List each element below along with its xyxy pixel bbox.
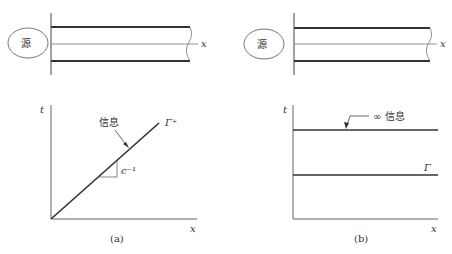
panel-a-arrowhead-icon: [123, 142, 129, 148]
panel-a-source-label: 源: [21, 37, 31, 49]
panel-a-caption: (a): [110, 233, 124, 244]
panel-b-characteristic-label: Γ: [423, 162, 432, 173]
panel-a-t-label: t: [40, 104, 45, 115]
panel-b-info-leader: [347, 116, 369, 125]
panel-b-pipe-break: [426, 28, 431, 61]
panel-a-pipe-diagram: 源 x: [8, 13, 207, 75]
panel-b-caption: (b): [354, 233, 368, 244]
panel-a-slope-label: c⁻¹: [121, 165, 136, 176]
panel-b-arrowhead-icon: [344, 122, 349, 129]
panel-a-characteristic-label: Γ⁺: [164, 117, 177, 128]
panel-b-source-label: 源: [257, 38, 267, 50]
panel-a-x-label-top: x: [201, 38, 207, 49]
panel-a-info-label: 信息: [99, 116, 119, 128]
panel-b-t-label: t: [283, 104, 288, 115]
panel-b-info-label: ∞ 信息: [373, 110, 405, 122]
panel-a-xt-diagram: t x Γ⁺ 信息 c⁻¹ (a): [40, 104, 197, 244]
panel-b-x-label-top: x: [440, 38, 446, 49]
panel-a-x-label-bottom: x: [190, 223, 196, 234]
panel-b-x-label-bottom: x: [431, 223, 437, 234]
panel-a-characteristic-line: [51, 123, 159, 219]
panel-b-xt-diagram: t x Γ ∞ 信息 (b): [283, 104, 438, 244]
panel-b-pipe-diagram: 源 x: [244, 13, 446, 75]
